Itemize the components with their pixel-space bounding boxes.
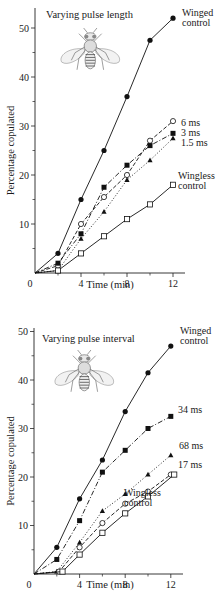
data-point-marker (77, 552, 82, 557)
data-point-marker (168, 452, 173, 457)
series-label: 68 ms (179, 440, 203, 451)
data-point-marker (56, 261, 61, 266)
data-point-marker (147, 138, 152, 143)
chart-panel-pulse-interval: 102030405004812Percentage copulatedTime … (0, 300, 220, 593)
data-point-marker (100, 530, 105, 535)
fly-illustration (61, 28, 120, 70)
x-tick-label: 12 (166, 579, 176, 590)
data-point-marker (78, 236, 83, 241)
data-point-marker (77, 545, 82, 550)
data-point-marker (168, 414, 173, 419)
data-point-marker (124, 94, 129, 99)
data-point-marker (55, 268, 60, 273)
y-axis-title: Percentage copulated (5, 105, 16, 195)
y-tick-label: 10 (18, 520, 28, 531)
data-point-marker (123, 409, 128, 414)
y-tick-label: 40 (19, 72, 29, 83)
data-point-marker (147, 202, 152, 207)
data-point-marker (78, 197, 83, 202)
data-point-marker (78, 221, 83, 226)
data-point-marker (101, 148, 106, 153)
data-point-marker (170, 182, 175, 187)
series-label: 17 ms (178, 459, 202, 470)
data-point-marker (124, 172, 129, 177)
data-point-marker (100, 520, 105, 525)
series-label: 1.5 ms (181, 137, 208, 148)
y-tick-label: 50 (19, 23, 29, 34)
panel-title: Varying pulse length (46, 9, 134, 20)
x-tick-label: 4 (79, 278, 84, 289)
series-label: Winglesscontrol (178, 170, 215, 191)
data-point-marker (55, 251, 60, 256)
data-point-marker (125, 163, 130, 168)
series-3-ms: 3 ms (35, 127, 200, 273)
data-point-marker (170, 16, 175, 21)
line-chart-pulse-length: 102030405004812Percentage copulatedTime … (0, 0, 220, 300)
data-point-marker (172, 472, 177, 477)
data-point-marker (124, 217, 129, 222)
x-tick-label: 0 (27, 579, 32, 590)
data-point-marker (123, 511, 128, 516)
data-point-marker (168, 343, 173, 348)
y-tick-label: 30 (19, 121, 29, 132)
series-34-ms: 34 ms (34, 404, 202, 574)
data-point-marker (170, 119, 175, 124)
data-point-marker (54, 545, 59, 550)
data-point-marker (171, 131, 176, 136)
data-point-marker (101, 234, 106, 239)
data-point-marker (147, 158, 152, 163)
data-point-marker (77, 540, 82, 545)
series-1-5-ms: 1.5 ms (35, 135, 208, 273)
y-axis-title: Percentage copulated (5, 416, 16, 506)
data-point-marker (54, 557, 59, 562)
y-tick-label: 20 (18, 472, 28, 483)
series-label: 34 ms (178, 404, 202, 415)
data-point-marker (78, 251, 83, 256)
y-tick-label: 30 (18, 423, 28, 434)
series-label: Winglesscontrol (124, 487, 161, 508)
line-chart-pulse-interval: 102030405004812Percentage copulatedTime … (0, 300, 220, 593)
data-point-marker (100, 457, 105, 462)
x-tick-label: 4 (77, 579, 82, 590)
y-tick-label: 20 (19, 170, 29, 181)
series-label: Wingedcontrol (182, 7, 213, 28)
x-tick-label: 12 (168, 278, 178, 289)
data-point-marker (102, 185, 107, 190)
fly-illustration (55, 350, 114, 392)
data-point-marker (100, 508, 105, 513)
data-point-marker (77, 518, 82, 523)
series-label: Wingedcontrol (180, 325, 211, 346)
x-axis-title: Time (min) (86, 279, 134, 291)
x-tick-label: 0 (28, 278, 33, 289)
data-point-marker (101, 194, 106, 199)
y-tick-label: 50 (18, 326, 28, 337)
data-point-marker (146, 426, 151, 431)
data-point-marker (79, 231, 84, 236)
axes: 102030405004812 (18, 326, 183, 590)
data-point-marker (145, 370, 150, 375)
panel-title: Varying pulse interval (42, 333, 135, 344)
y-tick-label: 10 (19, 219, 29, 230)
data-point-marker (60, 569, 65, 574)
data-point-marker (123, 448, 128, 453)
data-point-marker (170, 135, 175, 140)
data-point-marker (100, 470, 105, 475)
data-point-marker (77, 496, 82, 501)
y-tick-label: 40 (18, 375, 28, 386)
data-point-marker (147, 38, 152, 43)
data-point-marker (101, 209, 106, 214)
data-point-marker (148, 143, 153, 148)
chart-panel-pulse-length: 102030405004812Percentage copulatedTime … (0, 0, 220, 300)
x-axis-title: Time (min) (86, 579, 134, 591)
data-point-marker (124, 177, 129, 182)
